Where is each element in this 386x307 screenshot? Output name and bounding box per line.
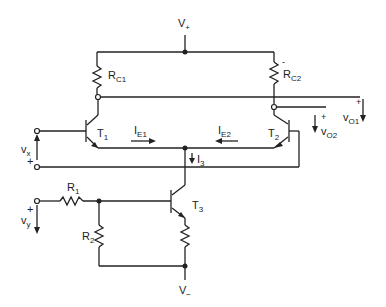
t1-collector bbox=[87, 115, 98, 125]
r1-label: R1 bbox=[67, 182, 79, 196]
vy-arrow-head bbox=[34, 227, 40, 234]
t3-collector bbox=[172, 185, 185, 195]
rc2-label: RC2 bbox=[283, 69, 301, 83]
rc1-resistor bbox=[93, 66, 101, 88]
vx-terminal bbox=[35, 129, 40, 134]
vx-arrow-head bbox=[34, 134, 40, 141]
t2-collector bbox=[274, 115, 288, 124]
ie1-arrow-head bbox=[149, 138, 156, 144]
vo2-label: vO2 bbox=[321, 126, 337, 140]
t2-emitter-arrow bbox=[274, 142, 283, 148]
r1-resistor bbox=[60, 197, 83, 205]
i3-arrow-head bbox=[189, 158, 195, 164]
rc1-output-terminal bbox=[96, 95, 101, 100]
t1-label: T1 bbox=[97, 128, 108, 142]
vy-plus-label: + bbox=[27, 204, 33, 215]
vx-ground-terminal bbox=[35, 165, 40, 170]
t2-label: T2 bbox=[268, 128, 279, 142]
rc1-label: RC1 bbox=[108, 70, 126, 84]
rc2-resistor bbox=[270, 62, 278, 84]
vo1-arrow-head bbox=[360, 115, 366, 122]
r2-resistor bbox=[95, 225, 103, 247]
vy-terminal bbox=[35, 199, 40, 204]
i3-label: I3 bbox=[197, 154, 205, 168]
r2-label: R2 bbox=[82, 231, 94, 245]
vx-plus-label: + bbox=[27, 156, 33, 167]
vo2-arrow-head bbox=[312, 126, 318, 133]
vo1-plus-label: + bbox=[356, 98, 361, 107]
vo2-plus-label: + bbox=[321, 113, 326, 122]
emitter-resistor bbox=[181, 225, 189, 247]
circuit-diagram: V+ RC1 RC2 - T1 T2 T3 IE1 IE2 I3 R1 R2 v… bbox=[0, 0, 386, 307]
rc2-minus-label: - bbox=[282, 58, 285, 67]
vo1-label: vO1 bbox=[343, 112, 359, 126]
ie1-label: IE1 bbox=[134, 125, 147, 139]
t3-label: T3 bbox=[192, 200, 203, 214]
ie2-label: IE2 bbox=[218, 125, 231, 139]
rc2-output-terminal bbox=[272, 105, 277, 110]
vplus-label: V+ bbox=[178, 18, 190, 32]
vy-label: vy bbox=[21, 215, 31, 229]
circuit-schematic bbox=[0, 0, 386, 307]
vminus-label: V− bbox=[179, 285, 191, 299]
